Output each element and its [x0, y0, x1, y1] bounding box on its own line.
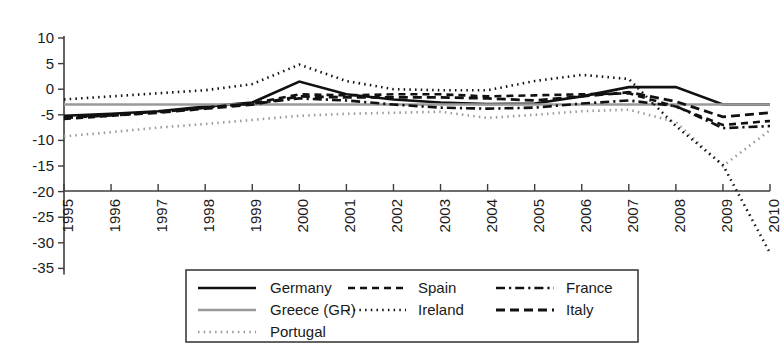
x-axis-tick-label: 2007 — [624, 199, 641, 232]
x-axis-tick-label: 2006 — [577, 199, 594, 232]
x-axis-tick-label: 2004 — [483, 199, 500, 232]
legend-label-portugal: Portugal — [270, 323, 326, 340]
line-chart-svg: 1050-5-10-15-20-25-30-35 199519961997199… — [0, 0, 783, 357]
y-axis-tick-label: 0 — [46, 80, 54, 97]
y-axis-tick-label: -10 — [32, 131, 54, 148]
y-axis-tick-label: -15 — [32, 157, 54, 174]
y-axis-tick-label: 5 — [46, 55, 54, 72]
legend-label-spain: Spain — [418, 279, 456, 296]
x-axis: 1995199619971998199920002001200220032004… — [59, 184, 782, 232]
y-axis: 1050-5-10-15-20-25-30-35 — [32, 29, 64, 276]
chart-legend: GermanySpainFranceGreece (GR)IrelandItal… — [186, 270, 638, 342]
x-axis-tick-label: 1998 — [200, 199, 217, 232]
y-axis-tick-label: -30 — [32, 234, 54, 251]
x-axis-tick-label: 1995 — [59, 199, 76, 232]
x-axis-tick-label: 2010 — [765, 199, 782, 232]
x-axis-tick-label: 2002 — [388, 199, 405, 232]
legend-label-greece-gr: Greece (GR) — [270, 301, 356, 318]
y-axis-tick-label: 10 — [37, 29, 54, 46]
series-line-portugal — [64, 110, 770, 166]
chart-container: 1050-5-10-15-20-25-30-35 199519961997199… — [0, 0, 783, 357]
x-axis-tick-label: 1997 — [153, 199, 170, 232]
legend-label-ireland: Ireland — [418, 301, 464, 318]
x-axis-tick-label: 2003 — [436, 199, 453, 232]
x-axis-tick-label: 1999 — [247, 199, 264, 232]
legend-label-italy: Italy — [566, 301, 594, 318]
y-axis-tick-label: -25 — [32, 208, 54, 225]
x-axis-tick-label: 2008 — [671, 199, 688, 232]
y-axis-tick-label: -5 — [41, 106, 54, 123]
x-axis-tick-label: 2009 — [718, 199, 735, 232]
legend-label-france: France — [566, 279, 613, 296]
y-axis-tick-label: -20 — [32, 183, 54, 200]
x-axis-tick-label: 2005 — [530, 199, 547, 232]
x-axis-tick-label: 2000 — [294, 199, 311, 232]
x-axis-tick-label: 1996 — [106, 199, 123, 232]
y-axis-tick-label: -35 — [32, 259, 54, 276]
legend-label-germany: Germany — [270, 279, 332, 296]
x-axis-tick-label: 2001 — [341, 199, 358, 232]
